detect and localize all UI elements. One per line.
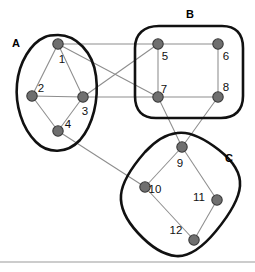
graph-node-label-10: 10	[149, 183, 162, 195]
graph-edge-8-9	[182, 97, 218, 147]
cluster-outline-b	[135, 26, 243, 118]
node-labels-layer: 123456789101112	[38, 50, 229, 236]
graph-node-label-11: 11	[193, 191, 205, 203]
graph-node-11[interactable]	[212, 195, 222, 205]
graph-node-2[interactable]	[27, 91, 37, 101]
graph-edge-1-7	[58, 44, 158, 97]
graph-node-8[interactable]	[213, 92, 223, 102]
graph-node-3[interactable]	[78, 92, 88, 102]
graph-node-label-7: 7	[161, 83, 167, 95]
cluster-labels-layer: ABC	[12, 8, 233, 164]
graph-node-5[interactable]	[153, 39, 163, 49]
graph-node-label-8: 8	[223, 81, 229, 93]
graph-node-label-12: 12	[170, 224, 183, 236]
graph-node-label-6: 6	[223, 50, 229, 62]
graph-canvas: 123456789101112 ABC	[0, 0, 255, 272]
cluster-label-a: A	[12, 37, 20, 49]
graph-node-label-4: 4	[65, 118, 72, 130]
clusters-layer	[17, 26, 243, 256]
graph-figure: 123456789101112 ABC	[0, 0, 255, 272]
graph-node-6[interactable]	[213, 39, 223, 49]
graph-edge-4-10	[58, 131, 145, 187]
graph-edge-2-3	[32, 96, 83, 97]
cluster-label-c: C	[225, 152, 233, 164]
graph-node-4[interactable]	[53, 126, 63, 136]
graph-edge-2-4	[32, 96, 58, 131]
graph-edge-1-3	[58, 44, 83, 97]
graph-node-9[interactable]	[177, 142, 187, 152]
graph-node-label-1: 1	[59, 53, 65, 65]
graph-node-label-9: 9	[177, 157, 183, 169]
graph-node-label-5: 5	[162, 50, 168, 62]
graph-edge-1-2	[32, 44, 58, 96]
graph-node-label-2: 2	[38, 82, 44, 94]
graph-node-label-3: 3	[82, 105, 88, 117]
graph-node-1[interactable]	[53, 39, 63, 49]
cluster-label-b: B	[186, 8, 194, 20]
edges-layer	[32, 44, 218, 240]
graph-node-12[interactable]	[189, 235, 199, 245]
